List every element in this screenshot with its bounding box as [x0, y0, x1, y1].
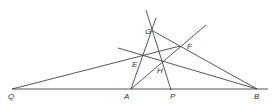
line-GB [153, 31, 257, 89]
point-label-a: A [123, 92, 129, 101]
point-label-h: H [157, 66, 163, 75]
geometry-diagram: QAPBGFEH [0, 0, 275, 104]
line-QEF [12, 46, 180, 89]
point-label-p: P [170, 92, 176, 101]
point-label-g: G [145, 27, 151, 36]
point-label-f: F [187, 42, 193, 51]
line-GHP [146, 10, 171, 90]
point-label-e: E [132, 60, 138, 69]
point-label-b: B [254, 92, 260, 101]
point-label-q: Q [8, 92, 14, 101]
